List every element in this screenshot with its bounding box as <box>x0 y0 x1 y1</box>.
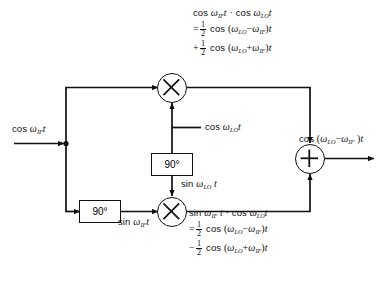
lo-omega: ω <box>223 121 230 132</box>
eqt-l1-omega2: ω <box>254 7 261 18</box>
input-omega: ω <box>30 123 37 134</box>
phase-shifter-bottom[interactable]: 90° <box>79 200 121 223</box>
equation-bottom-line1: sin ωIF t · cos ωLOt <box>189 207 268 219</box>
eqt-l3-omega1: ω <box>231 42 238 53</box>
eqb-l1-omega2: ω <box>250 207 257 218</box>
eqt-l3-frac: 12 <box>200 40 206 57</box>
eqb-l2-rel: = <box>189 223 195 234</box>
if-quad-fn: sin <box>118 216 130 227</box>
if-quad-var: t <box>146 216 149 227</box>
lo-quad-fn: sin <box>181 178 193 189</box>
eqt-l3-den: 2 <box>200 48 206 57</box>
lo-input-label: cos ωLOt <box>205 121 241 133</box>
input-label: cos ωIFt <box>12 123 46 135</box>
input-fn: cos <box>12 123 27 134</box>
eqb-l1-fn1: sin <box>189 207 201 218</box>
eqb-l3-den: 2 <box>196 248 202 257</box>
eqt-l2-rel: = <box>193 23 199 34</box>
eqt-l2-omega1: ω <box>231 23 238 34</box>
eqt-l1-fn2: cos <box>236 7 251 18</box>
equation-bottom-line3: −12 cos (ωLO+ωIF)t <box>189 240 268 257</box>
lo-fn: cos <box>205 121 220 132</box>
eqb-l2-omega1: ω <box>227 223 234 234</box>
if-quadrature-label: sin ωIFt <box>118 216 149 228</box>
eqb-l3-omega1: ω <box>227 242 234 253</box>
out-var: t <box>360 133 363 144</box>
eqb-l3-rel: − <box>189 242 195 253</box>
eqb-l3-sub1: LO <box>235 247 243 254</box>
eqb-l2-den: 2 <box>196 229 202 238</box>
eqb-l3-num: 1 <box>196 240 202 248</box>
eqt-l2-sub1: LO <box>239 27 247 34</box>
eqt-l1-fn1: cos <box>193 7 208 18</box>
eqt-l3-num: 1 <box>200 40 206 48</box>
equation-bottom-line2: =12 cos (ωLO−ωIF)t <box>189 221 268 238</box>
eqb-l2-num: 1 <box>196 221 202 229</box>
phase-shifter-top-label: 90° <box>164 159 179 170</box>
eqt-l2-den: 2 <box>200 29 206 38</box>
multiply-icon <box>158 198 185 225</box>
input-var: t <box>43 123 46 134</box>
eqt-l1-var2: t <box>269 7 272 18</box>
eqb-l2-var: t <box>265 223 268 234</box>
mixer-bottom[interactable] <box>157 197 187 227</box>
eqt-l2-fn: cos <box>210 23 225 34</box>
eqb-l2-fn: cos <box>206 223 221 234</box>
eqb-l2-frac: 12 <box>196 221 202 238</box>
eqb-l1-fn2: cos <box>232 207 247 218</box>
lo-quad-var: t <box>214 178 217 189</box>
phase-shifter-bottom-label: 90° <box>92 206 107 217</box>
equation-top-line2: =12 cos (ωLO−ωIF)t <box>193 21 272 38</box>
eqt-l2-frac: 12 <box>200 21 206 38</box>
lo-quadrature-label: sin ωLO t <box>181 178 217 190</box>
eqt-l1-sub2: LO <box>261 12 269 19</box>
multiply-icon <box>158 74 185 101</box>
out-fn: cos <box>299 133 314 144</box>
eqt-l3-fn: cos <box>210 42 225 53</box>
eqb-l3-frac: 12 <box>196 240 202 257</box>
eqt-l1-omega1: ω <box>211 7 218 18</box>
summer[interactable] <box>295 144 325 174</box>
eqb-l2-sub1: LO <box>235 227 243 234</box>
junction-dot-input <box>63 141 68 146</box>
eqt-l3-sub1: LO <box>239 47 247 54</box>
equation-top: cos ωIFt · cos ωLOt =12 cos (ωLO−ωIF)t +… <box>193 7 272 59</box>
lo-sub: LO <box>230 126 238 133</box>
eqb-l1-sub2: LO <box>257 212 265 219</box>
diagram-canvas: 90° 90° cos ωIFt cos ωLOt sin ωLO t sin … <box>0 0 386 282</box>
mixer-top[interactable] <box>157 73 187 103</box>
plus-icon <box>296 145 323 172</box>
equation-top-line3: +12 cos (ωLO+ωIF)t <box>193 40 272 57</box>
eqt-l3-rel: + <box>193 42 199 53</box>
eqb-l3-var: t <box>265 242 268 253</box>
output-label: cos (ωLO−ωIF )t <box>299 133 363 145</box>
equation-top-line1: cos ωIFt · cos ωLOt <box>193 7 272 19</box>
eqt-l2-num: 1 <box>200 21 206 29</box>
eqb-l3-fn: cos <box>206 242 221 253</box>
eqt-l2-var: t <box>269 23 272 34</box>
equation-bottom: sin ωIF t · cos ωLOt =12 cos (ωLO−ωIF)t … <box>189 207 268 259</box>
eqb-l1-var2: t <box>265 207 268 218</box>
phase-shifter-top[interactable]: 90° <box>151 153 193 176</box>
eqt-l3-var: t <box>269 42 272 53</box>
lo-var: t <box>238 121 241 132</box>
